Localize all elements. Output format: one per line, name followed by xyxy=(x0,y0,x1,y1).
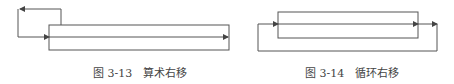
arithmetic-shift-diagram xyxy=(18,9,229,50)
caption-title: 循环右移 xyxy=(355,67,399,80)
circular-shift-diagram xyxy=(258,12,437,51)
figure-caption-3-14: 图 3-14 循环右移 xyxy=(305,64,399,80)
register-box xyxy=(278,12,418,38)
figure-caption-3-13: 图 3-13 算术右移 xyxy=(93,64,187,80)
caption-number: 图 3-14 xyxy=(305,67,344,80)
caption-number: 图 3-13 xyxy=(93,67,132,80)
caption-title: 算术右移 xyxy=(143,67,187,80)
